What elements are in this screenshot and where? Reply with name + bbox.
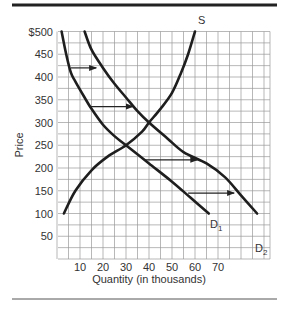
y-tick-label: 400 <box>35 71 53 83</box>
x-tick-label: 30 <box>120 261 132 273</box>
y-tick-label: 450 <box>35 48 53 60</box>
x-axis-label: Quantity (in thousands) <box>92 273 206 285</box>
y-tick-label: $500 <box>29 26 53 38</box>
chart-grid <box>57 32 270 260</box>
y-tick-label: 350 <box>35 94 53 106</box>
x-axis-ticks: 10203040506070 <box>74 261 224 273</box>
x-tick-label: 10 <box>74 261 86 273</box>
y-tick-label: 100 <box>35 208 53 220</box>
y-tick-label: 50 <box>41 230 53 242</box>
curve-label-d2: D2 <box>255 242 268 257</box>
curve-labels: SD1D2 <box>198 14 268 257</box>
curve-label-d1: D1 <box>210 218 223 233</box>
curve-label-s: S <box>198 14 205 26</box>
x-tick-label: 50 <box>166 261 178 273</box>
x-tick-label: 70 <box>212 261 224 273</box>
shift-arrows <box>71 68 234 193</box>
y-tick-label: 300 <box>35 117 53 129</box>
supply-demand-chart: $50045040035030025020015010050 102030405… <box>0 0 286 310</box>
y-axis-ticks: $50045040035030025020015010050 <box>29 26 53 243</box>
x-tick-label: 60 <box>189 261 201 273</box>
y-tick-label: 150 <box>35 185 53 197</box>
x-tick-label: 40 <box>143 261 155 273</box>
y-tick-label: 200 <box>35 162 53 174</box>
x-tick-label: 20 <box>97 261 109 273</box>
y-axis-label: Price <box>13 132 25 157</box>
y-tick-label: 250 <box>35 139 53 151</box>
